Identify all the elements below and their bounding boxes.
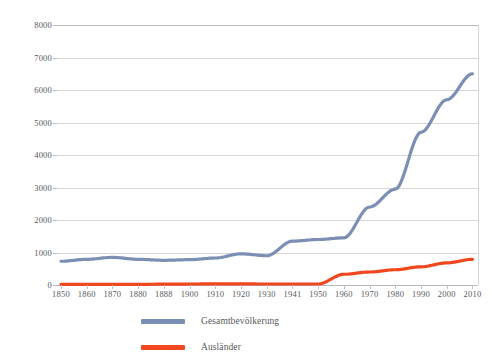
y-axis-tick-label: 3000 — [4, 184, 52, 193]
gridline — [57, 90, 478, 91]
x-axis-tick-mark — [241, 285, 242, 289]
y-axis-tick-mark — [53, 90, 57, 91]
legend-label-auslaender: Ausländer — [201, 342, 241, 353]
y-axis-tick-mark — [53, 253, 57, 254]
x-axis-tick-mark — [215, 285, 216, 289]
gridline — [57, 123, 478, 124]
y-axis-tick-label: 2000 — [4, 216, 52, 225]
legend: Gesamtbevölkerung Ausländer — [0, 313, 492, 359]
cut-off-title — [22, 0, 322, 3]
x-axis-tick-mark — [370, 285, 371, 289]
y-axis: 800070006000500040003000200010000 — [0, 25, 52, 285]
y-axis-tick-mark — [53, 285, 57, 286]
y-axis-tick-label: 1000 — [4, 249, 52, 258]
x-axis-tick-mark — [190, 285, 191, 289]
y-axis-tick-label: 5000 — [4, 119, 52, 128]
x-axis-tick-mark — [164, 285, 165, 289]
x-axis-tick-mark — [344, 285, 345, 289]
x-axis-tick-mark — [318, 285, 319, 289]
x-axis-tick-mark — [421, 285, 422, 289]
y-axis-tick-mark — [53, 188, 57, 189]
legend-item-auslaender: Ausländer — [0, 339, 492, 355]
x-axis-tick-mark — [138, 285, 139, 289]
y-axis-tick-mark — [53, 220, 57, 221]
y-axis-tick-label: 8000 — [4, 21, 52, 30]
x-axis-tick-mark — [292, 285, 293, 289]
x-axis-tick-mark — [472, 285, 473, 289]
gridline — [57, 155, 478, 156]
plot-area — [57, 25, 479, 285]
y-axis-tick-label: 4000 — [4, 151, 52, 160]
x-axis: 1850186018701880188819001910192019301941… — [57, 289, 479, 305]
y-axis-tick-mark — [53, 155, 57, 156]
gridline — [57, 25, 478, 26]
x-axis-tick-mark — [61, 285, 62, 289]
legend-swatch-auslaender — [141, 345, 185, 350]
x-axis-tick-mark — [447, 285, 448, 289]
gridline — [57, 58, 478, 59]
gridline — [57, 188, 478, 189]
legend-item-gesamtbevoelkerung: Gesamtbevölkerung — [0, 313, 492, 329]
legend-swatch-gesamtbevoelkerung — [141, 319, 185, 324]
y-axis-tick-label: 6000 — [4, 86, 52, 95]
y-axis-tick-label: 7000 — [4, 54, 52, 63]
line-chart: 800070006000500040003000200010000 185018… — [0, 0, 492, 363]
y-axis-tick-mark — [53, 123, 57, 124]
x-axis-tick-label: 2010 — [452, 289, 492, 299]
y-axis-tick-mark — [53, 25, 57, 26]
gridline — [57, 253, 478, 254]
x-axis-tick-mark — [112, 285, 113, 289]
x-axis-tick-mark — [395, 285, 396, 289]
gridline — [57, 220, 478, 221]
x-axis-tick-mark — [267, 285, 268, 289]
x-axis-tick-mark — [87, 285, 88, 289]
y-axis-tick-mark — [53, 58, 57, 59]
legend-label-gesamtbevoelkerung: Gesamtbevölkerung — [201, 316, 279, 327]
